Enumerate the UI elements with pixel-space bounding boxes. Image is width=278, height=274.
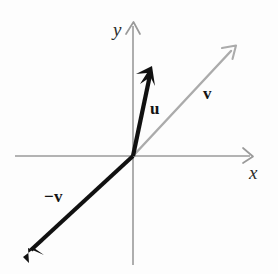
vector-v-label: v [203,85,212,102]
vector-diagram: y x u v −v [0,0,278,274]
vector-u-label: u [150,100,160,117]
vector-v-shaft [133,51,231,156]
y-axis-label: y [113,20,121,39]
vector-negative-v-label: −v [44,188,63,205]
vector-u-shaft [133,75,150,156]
vector-negative-v-arrowhead-icon [23,241,44,263]
vector-u-arrowhead-icon [136,66,155,86]
vector-canvas [0,0,278,274]
x-axis-label: x [249,163,257,182]
